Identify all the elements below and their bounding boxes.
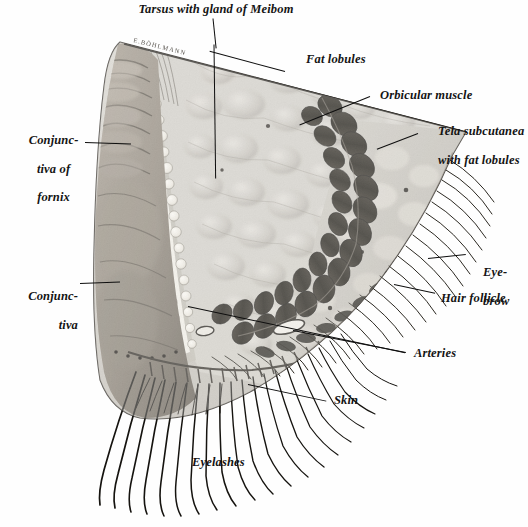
- label-tela-subcutanea-line2: with fat lobules: [438, 153, 520, 167]
- eyelid-section-illustration: E.BÖHLMANN: [0, 0, 528, 527]
- label-conjunctiva-of-fornix-line3: fornix: [37, 190, 70, 204]
- figure-canvas: E.BÖHLMANN Tarsus with gland of Meibom F…: [0, 0, 528, 527]
- label-conjunctiva-of-fornix-line2: tiva of: [37, 162, 70, 176]
- label-fat-lobules: Fat lobules: [306, 52, 366, 66]
- label-conjunctiva-of-fornix-line1: Conjunc-: [29, 133, 79, 147]
- label-conjunctiva-line1: Conjunc-: [28, 289, 78, 303]
- label-eyebrow-line1: Eye-: [483, 265, 507, 279]
- label-conjunctiva-line2: tiva: [59, 318, 78, 332]
- label-tela-subcutanea: Tela subcutanea with fat lobules: [425, 110, 524, 181]
- label-tarsus: Tarsus with gland of Meibom: [131, 2, 301, 16]
- label-conjunctiva: Conjunc- tiva: [4, 275, 78, 346]
- label-orbicular-muscle: Orbicular muscle: [380, 88, 472, 102]
- label-tela-subcutanea-line1: Tela subcutanea: [438, 124, 524, 138]
- label-eyelashes: Eyelashes: [192, 455, 245, 469]
- label-arteries: Arteries: [414, 346, 456, 360]
- label-eyebrow: Eye- brow: [470, 251, 509, 322]
- label-conjunctiva-of-fornix: Conjunc- tiva of fornix: [8, 119, 86, 219]
- label-skin: Skin: [334, 393, 358, 407]
- label-hair-follicle: Hair follicle: [441, 291, 506, 305]
